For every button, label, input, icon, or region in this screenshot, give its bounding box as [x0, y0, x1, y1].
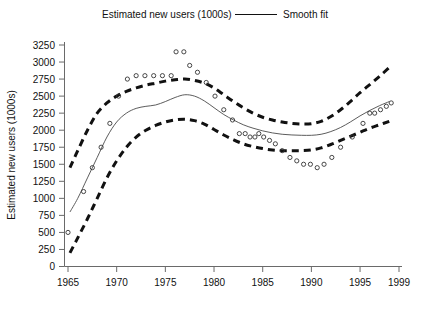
axis-spines: [65, 42, 403, 267]
data-point-group: [66, 50, 393, 235]
data-point: [66, 230, 70, 234]
data-point: [338, 145, 342, 149]
data-point: [143, 74, 147, 78]
data-point: [378, 108, 382, 112]
data-point: [257, 132, 261, 136]
data-point: [213, 94, 217, 98]
y-tick-label: 0: [49, 261, 55, 272]
y-axis-ticks: 0250500750100012501500175020002250250027…: [33, 40, 65, 273]
y-tick-label: 1500: [33, 159, 56, 170]
legend-fit-label: Smooth fit: [283, 9, 328, 20]
data-point: [134, 74, 138, 78]
y-axis-label: Estimated new users (1000s): [6, 90, 17, 220]
chart-legend: Estimated new users (1000s) Smooth fit: [102, 9, 328, 20]
smooth-fit-line: [70, 95, 389, 212]
data-point: [330, 155, 334, 159]
data-point: [195, 70, 199, 74]
data-point: [373, 111, 377, 115]
y-tick-label: 1000: [33, 193, 56, 204]
y-tick-label: 250: [38, 244, 55, 255]
x-tick-label: 1990: [300, 277, 323, 288]
data-point: [389, 101, 393, 105]
x-tick-label: 1999: [388, 277, 411, 288]
data-point: [243, 132, 247, 136]
data-point: [273, 142, 277, 146]
data-point: [81, 189, 85, 193]
data-point: [368, 111, 372, 115]
y-tick-label: 1250: [33, 176, 56, 187]
data-point: [361, 121, 365, 125]
y-tick-label: 2500: [33, 91, 56, 102]
data-point: [222, 108, 226, 112]
data-point: [169, 74, 173, 78]
legend-series-label: Estimated new users (1000s): [102, 9, 232, 20]
y-tick-label: 3000: [33, 57, 56, 68]
y-tick-label: 3250: [33, 40, 56, 51]
x-tick-label: 1995: [349, 277, 372, 288]
x-tick-label: 1985: [252, 277, 275, 288]
data-point: [237, 132, 241, 136]
plot-area: [66, 50, 393, 253]
data-point: [188, 63, 192, 67]
data-point: [152, 74, 156, 78]
x-tick-label: 1980: [203, 277, 226, 288]
x-tick-label: 1965: [57, 277, 80, 288]
data-point: [174, 50, 178, 54]
data-point: [160, 74, 164, 78]
x-tick-label: 1975: [154, 277, 177, 288]
data-point: [322, 162, 326, 166]
chart-svg: Estimated new users (1000s) Smooth fit E…: [0, 0, 422, 309]
data-point: [262, 135, 266, 139]
data-point: [315, 166, 319, 170]
data-point: [301, 162, 305, 166]
data-point: [125, 77, 129, 81]
y-tick-label: 2000: [33, 125, 56, 136]
y-tick-label: 1750: [33, 142, 56, 153]
lower-confidence-band: [70, 119, 389, 253]
data-point: [288, 155, 292, 159]
data-point: [267, 138, 271, 142]
data-point: [182, 50, 186, 54]
y-tick-label: 2250: [33, 108, 56, 119]
data-point: [253, 135, 257, 139]
data-point: [248, 135, 252, 139]
x-tick-label: 1970: [106, 277, 129, 288]
data-point: [295, 159, 299, 163]
x-axis-ticks: 19651970197519801985199019951999: [57, 267, 411, 289]
data-point: [384, 104, 388, 108]
data-point: [204, 80, 208, 84]
chart-container: Estimated new users (1000s) Smooth fit E…: [0, 0, 422, 309]
y-tick-label: 750: [38, 210, 55, 221]
data-point: [108, 121, 112, 125]
data-point: [308, 162, 312, 166]
y-tick-label: 500: [38, 227, 55, 238]
y-tick-label: 2750: [33, 74, 56, 85]
